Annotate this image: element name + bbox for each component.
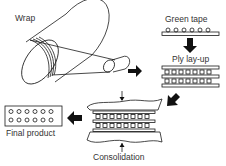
final-product-block — [5, 106, 62, 126]
label-ply-layup: Ply lay-up — [172, 55, 209, 64]
consolidation-press — [87, 91, 162, 152]
arrow-diagonal-icon — [167, 93, 180, 106]
label-wrap: Wrap — [15, 14, 35, 23]
arrow-left-icon — [67, 111, 82, 125]
green-tape-strip — [162, 28, 219, 36]
tape-line — [30, 40, 115, 60]
label-final-product: Final product — [6, 129, 55, 138]
label-green-tape: Green tape — [165, 15, 208, 24]
tape-spool — [101, 56, 130, 74]
arrow-down-icon — [183, 38, 197, 53]
arrow-right-icon — [128, 65, 142, 77]
ply-layup-stack — [162, 66, 219, 87]
process-diagram — [0, 0, 226, 166]
tape-line — [52, 72, 110, 75]
label-consolidation: Consolidation — [93, 153, 145, 162]
